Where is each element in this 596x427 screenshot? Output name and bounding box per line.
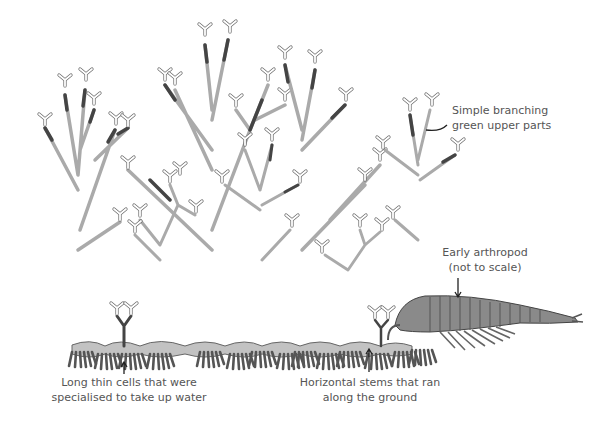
label-water-cells: Long thin cells that were specialised to… — [44, 375, 214, 405]
arthropod-pointer — [455, 278, 461, 297]
label-upper-parts-line2: green upper parts — [452, 118, 551, 133]
plant-1 — [39, 69, 134, 345]
label-upper-parts: Simple branching green upper parts — [452, 103, 551, 133]
label-horizontal-stems-line1: Horizontal stems that ran — [295, 375, 445, 390]
plant-3 — [122, 21, 291, 348]
upper-parts-pointer — [426, 125, 447, 130]
plant-5 — [279, 47, 386, 348]
plant-illustration — [0, 0, 596, 427]
young-sprout — [111, 303, 137, 346]
plant-4 — [216, 129, 306, 348]
label-horizontal-stems: Horizontal stems that ran along the grou… — [295, 375, 445, 405]
label-arthropod-line1: Early arthropod — [430, 245, 540, 260]
label-water-cells-line2: specialised to take up water — [44, 390, 214, 405]
label-pointers — [121, 125, 461, 374]
label-horizontal-stems-line2: along the ground — [295, 390, 445, 405]
label-arthropod: Early arthropod (not to scale) — [430, 245, 540, 275]
label-water-cells-line1: Long thin cells that were — [44, 375, 214, 390]
label-arthropod-line2: (not to scale) — [430, 260, 540, 275]
plant-6 — [316, 215, 388, 348]
label-upper-parts-line1: Simple branching — [452, 103, 551, 118]
young-sprout-2 — [369, 307, 394, 346]
